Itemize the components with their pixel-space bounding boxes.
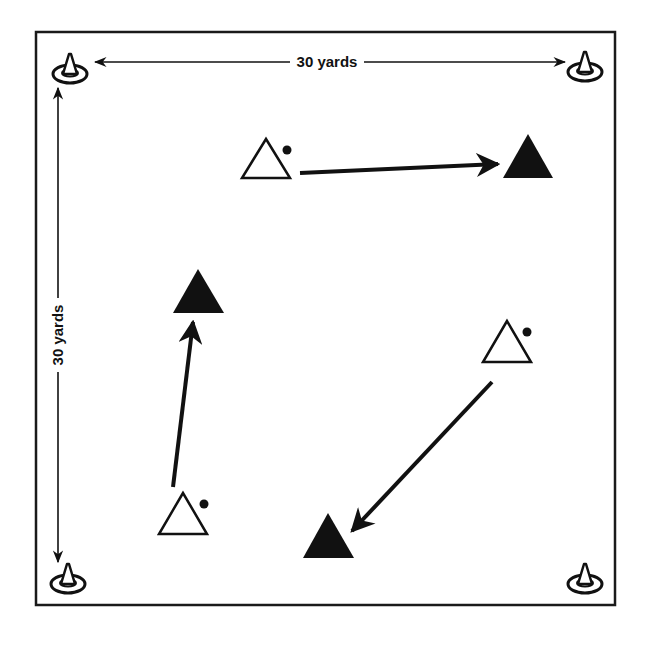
ball-icon <box>283 146 292 155</box>
passer-open-triangle-icon <box>242 139 290 178</box>
horizontal-dimension-label: 30 yards <box>297 53 358 70</box>
passing-pair-3 <box>303 321 532 558</box>
pass-arrow <box>300 164 498 173</box>
passing-drill-diagram: 30 yards 30 yards <box>0 0 647 647</box>
cone-icon <box>568 564 602 593</box>
horizontal-dimension: 30 yards <box>95 53 565 70</box>
pass-arrow <box>352 382 492 531</box>
ball-icon <box>200 500 209 509</box>
passing-pair-1 <box>242 134 553 178</box>
vertical-dimension-label: 30 yards <box>49 305 66 366</box>
passer-open-triangle-icon <box>483 321 531 362</box>
cone-icon <box>53 54 87 83</box>
passer-open-triangle-icon <box>159 493 207 534</box>
vertical-dimension: 30 yards <box>49 88 66 562</box>
ball-icon <box>523 328 532 337</box>
receiver-filled-triangle-icon <box>503 134 553 178</box>
receiver-filled-triangle-icon <box>303 513 354 558</box>
pass-arrow <box>173 322 193 487</box>
passing-pair-2 <box>159 269 224 534</box>
cone-icon <box>51 564 85 593</box>
cone-icon <box>568 52 602 81</box>
receiver-filled-triangle-icon <box>173 269 224 313</box>
